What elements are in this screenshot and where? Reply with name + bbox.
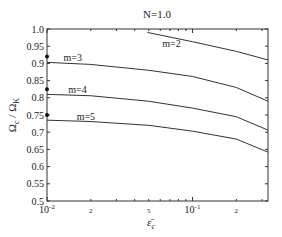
x-tick-label: 2 [235, 207, 239, 215]
x-tick-label: 10-1 [185, 203, 201, 215]
y-tick-label: 0.9 [32, 58, 45, 69]
y-tick-label: 0.6 [32, 161, 45, 172]
x-tick-label: 5 [147, 207, 151, 215]
x-axis-label: ε̄c [147, 216, 155, 231]
y-tick-label: 0.75 [27, 110, 45, 121]
y-tick-label: 0.8 [32, 92, 45, 103]
x-tick-label: 2 [89, 207, 93, 215]
data-marker [45, 55, 49, 59]
y-axis-label: Ωc / ΩK [6, 98, 21, 132]
y-axis: 0.50.550.60.650.70.750.80.850.90.951.0 [27, 24, 269, 207]
y-tick-label: 0.7 [32, 127, 45, 138]
series-label: m=5 [77, 111, 95, 122]
series-label: m=2 [162, 38, 180, 49]
y-tick-label: 0.55 [27, 178, 45, 189]
annotations: m=2m=3m=4m=5 [64, 38, 181, 121]
y-tick-label: 0.65 [27, 144, 45, 155]
y-tick-label: 0.95 [27, 41, 45, 52]
chart: N=1.0 0.50.550.60.650.70.750.80.850.90.9… [0, 0, 282, 237]
chart-title: N=1.0 [143, 8, 171, 20]
series-line-m-5 [47, 120, 268, 152]
y-tick-label: 0.85 [27, 75, 45, 86]
y-tick-label: 1.0 [32, 24, 45, 35]
series-label: m=4 [68, 84, 86, 95]
x-tick-label: 10-2 [39, 203, 55, 215]
series-label: m=3 [64, 52, 82, 63]
data-marker [45, 87, 49, 91]
data-marker [45, 113, 49, 117]
